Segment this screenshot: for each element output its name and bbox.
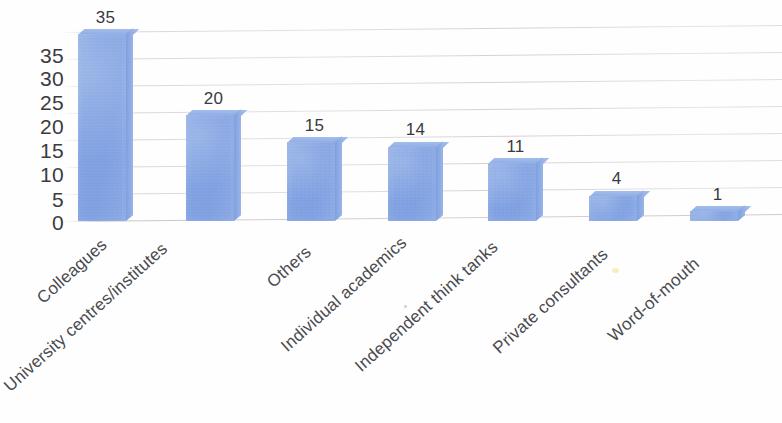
bar-colleagues[interactable] [78, 29, 133, 221]
bar-others[interactable] [287, 137, 342, 221]
y-tick-label-20: 20 [6, 116, 64, 137]
y-tick-label-25: 25 [6, 92, 64, 113]
gridline-35 [62, 25, 782, 33]
value-label-word-of-mouth: 1 [690, 186, 745, 203]
bar-front-face [589, 196, 637, 221]
x-axis-category-labels: Colleagues University centres/institutes… [0, 232, 782, 423]
gridline-20 [62, 106, 782, 114]
gridline-25 [62, 79, 782, 87]
bar-individual-academics[interactable] [388, 142, 443, 221]
value-label-others: 15 [287, 117, 342, 134]
value-label-individual-academics: 14 [388, 121, 443, 138]
y-tick-label-15: 15 [6, 140, 64, 161]
bar-front-face [186, 115, 234, 221]
plot-area: 35 30 25 20 15 10 5 0 [0, 0, 782, 232]
bar-front-face [287, 142, 335, 221]
y-tick-label-35: 35 [6, 45, 64, 66]
y-tick-label-10: 10 [6, 164, 64, 185]
value-label-colleagues: 35 [78, 9, 133, 26]
bar-front-face [388, 147, 436, 221]
x-label-private-consultants: Private consultants [490, 245, 612, 357]
value-label-independent-think-tanks: 11 [488, 138, 543, 155]
bar-front-face [78, 34, 126, 221]
bar-side-face [536, 157, 543, 221]
bar-word-of-mouth[interactable] [690, 206, 745, 221]
y-tick-label-5: 5 [6, 189, 64, 210]
bar-front-face [488, 163, 536, 221]
y-tick-label-30: 30 [6, 68, 64, 89]
bar-side-face [335, 136, 342, 221]
bar-chart: 35 30 25 20 15 10 5 0 [0, 0, 782, 423]
x-label-word-of-mouth: Word-of-mouth [605, 255, 703, 346]
value-label-university-centres-institutes: 20 [186, 90, 241, 107]
bar-side-face [126, 28, 133, 221]
bar-side-face [637, 190, 644, 221]
bar-front-face [690, 211, 738, 221]
bar-side-face [234, 109, 241, 221]
y-tick-label-0: 0 [6, 212, 64, 233]
gridline-30 [62, 52, 782, 60]
bar-side-face [436, 141, 443, 221]
bar-private-consultants[interactable] [589, 191, 644, 221]
bar-independent-think-tanks[interactable] [488, 158, 543, 221]
x-label-others: Others [264, 243, 315, 291]
value-label-private-consultants: 4 [589, 170, 644, 187]
bar-university-centres-institutes[interactable] [186, 110, 241, 221]
